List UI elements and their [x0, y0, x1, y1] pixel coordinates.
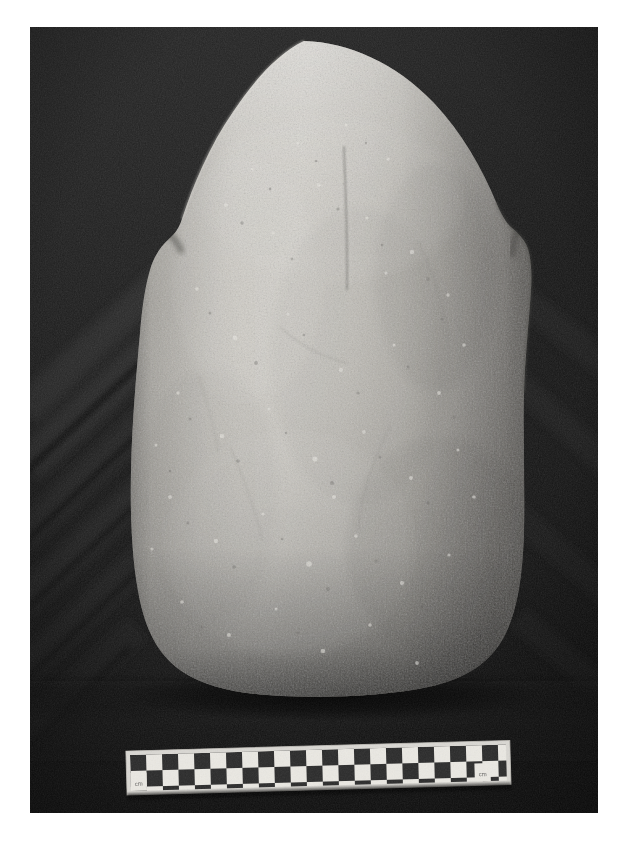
scan-grain-overlay: [30, 27, 598, 813]
photograph-canvas: cm cm: [30, 27, 598, 813]
photograph-frame: cm cm: [30, 27, 598, 813]
plate-caption: [30, 818, 598, 838]
photo-plate-page: cm cm: [0, 0, 626, 842]
